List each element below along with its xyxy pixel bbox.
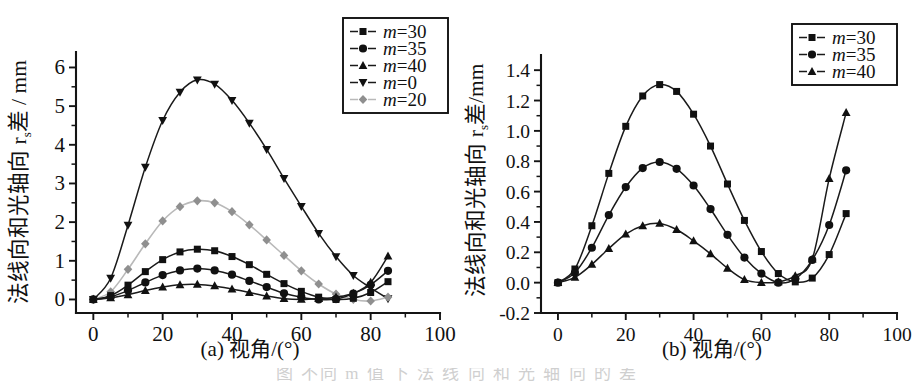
marker-square [758,248,765,255]
marker-circle [605,211,613,219]
marker-triangle-up [689,236,698,244]
marker-circle [808,50,816,58]
series-m-35 [554,158,850,287]
marker-circle [359,44,367,52]
data-point [808,50,816,58]
marker-circle [384,267,392,275]
marker-square [639,92,646,99]
marker-circle [689,181,697,189]
data-point [141,164,150,172]
marker-square [159,256,166,263]
marker-square [367,289,374,296]
series-group [554,81,851,287]
series-line [558,162,846,283]
marker-diamond [210,198,219,207]
data-point [826,251,833,258]
data-point [142,268,149,275]
marker-triangle-up [740,275,749,283]
data-point [588,222,595,229]
figure-root: 0123456020406080100法线向和光轴向 rs差 / mm(a) 视… [0,0,914,386]
data-point [385,278,392,285]
data-point [758,248,765,255]
data-point [673,88,680,95]
x-tick-label: 80 [360,322,381,346]
series-line [93,269,388,300]
data-point [843,210,850,217]
data-point [229,253,236,260]
legend: m=30m=35m=40m=0m=20 [343,18,448,113]
data-point [809,34,816,41]
marker-square [281,280,288,287]
y-tick-label: 0 [55,287,66,311]
marker-square [809,275,816,282]
marker-circle [757,269,765,277]
marker-circle [176,266,184,274]
legend-label: m=20 [383,89,426,110]
marker-circle [588,244,596,252]
data-point [741,217,748,224]
marker-square [194,246,201,253]
marker-square [360,28,367,35]
data-point [228,207,237,216]
marker-circle [656,158,664,166]
data-point [106,275,115,283]
marker-triangle-up [621,229,630,237]
bottom-caption-fragment: 图 不同 m 值 下 法 线 向 和 光 轴 向 的 差 [0,368,914,386]
y-tick-label: 4 [55,133,66,157]
data-point [775,270,782,277]
data-point [297,203,306,211]
series-line [558,84,846,282]
data-point [672,225,681,233]
x-tick-label: 0 [553,324,563,345]
marker-circle [842,166,850,174]
data-point [158,117,167,125]
marker-diamond [366,296,375,305]
marker-triangle-up [791,271,800,279]
y-tick-label: 1.4 [506,60,531,81]
data-point [724,181,731,188]
data-point [124,222,133,230]
marker-square [385,278,392,285]
data-point [176,202,185,211]
marker-square [707,143,714,150]
data-point [176,266,184,274]
y-tick-label: 1.2 [506,91,530,112]
series-m-30 [554,81,849,286]
data-point [263,271,270,278]
marker-circle [141,278,149,286]
marker-triangle-down [141,164,150,172]
y-tick-label: 0.2 [506,242,530,263]
y-tick-label: 1.0 [506,121,530,142]
x-tick-label: 100 [882,324,911,345]
marker-triangle-up [384,252,393,260]
panel-a-svg: 0123456020406080100法线向和光轴向 rs差 / mm(a) 视… [0,0,457,386]
data-point [791,271,800,279]
marker-circle [245,277,253,285]
panel-b-svg: -0.20.00.20.40.60.81.01.21.4020406080100… [457,0,914,386]
marker-triangle-down [158,117,167,125]
marker-triangle-down [280,175,289,183]
marker-triangle-down [124,222,133,230]
data-point [159,271,167,279]
data-point [605,170,612,177]
panel-b: -0.20.00.20.40.60.81.01.21.4020406080100… [457,0,914,386]
data-point [706,205,714,213]
marker-circle [211,266,219,274]
y-tick-label: 0.4 [506,212,531,233]
data-point [723,231,731,239]
y-tick-label: 1 [55,249,66,273]
data-point [639,92,646,99]
data-point [384,267,392,275]
data-point [281,280,288,287]
data-point [690,111,697,118]
marker-square [724,181,731,188]
data-point [141,278,149,286]
data-point [673,165,681,173]
y-axis-title: 法线向和光轴向 rs差 / mm [7,60,34,304]
legend: m=30m=35m=40 [792,24,897,85]
data-point [262,146,271,154]
marker-triangle-down [297,203,306,211]
marker-circle [673,165,681,173]
x-tick-label: 20 [152,322,173,346]
series-m-30 [90,246,392,303]
